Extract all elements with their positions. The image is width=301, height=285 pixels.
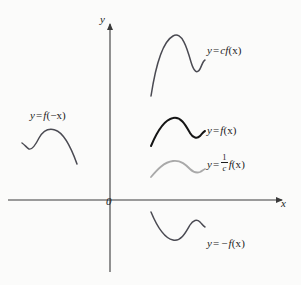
label-oneoverc-op: = (212, 158, 220, 170)
label-y-equals-one-over-c-f-of-x: y=1cf(x) (207, 153, 245, 173)
origin-label: 0 (106, 196, 112, 207)
function-transformation-figure: y=cf(x) y=f(x) y=1cf(x) y=−f(x) y=f(−x) … (0, 0, 301, 285)
label-y-equals-c-f-of-x: y=cf(x) (207, 45, 242, 56)
label-y-equals-negative-f-of-x: y=−f(x) (207, 238, 245, 249)
curve-one-over-c-times-f-of-x (151, 161, 205, 177)
fraction-numerator: 1 (221, 153, 227, 162)
curve-c-times-f-of-x (151, 35, 205, 96)
label-negfx-arg: (x) (232, 237, 245, 249)
label-cfx-arg: (x) (228, 44, 241, 56)
label-oneoverc-arg: (x) (232, 158, 245, 170)
label-y-equals-f-of-negative-x: y=f(−x) (30, 110, 66, 121)
fraction-denominator: c (221, 164, 227, 173)
graph-canvas (0, 0, 301, 285)
curve-negative-f-of-x (151, 212, 205, 240)
label-negfx-sign: − (220, 237, 228, 249)
x-axis-label: x (281, 198, 286, 209)
label-fnegx-arg: (−x) (46, 109, 65, 121)
fraction-one-over-c: 1c (221, 153, 227, 173)
label-fx-arg: (x) (223, 124, 236, 136)
y-axis-label: y (100, 14, 105, 25)
curve-f-of-negative-x (22, 129, 77, 164)
curve-f-of-x (151, 118, 205, 146)
label-y-equals-f-of-x: y=f(x) (207, 125, 237, 136)
